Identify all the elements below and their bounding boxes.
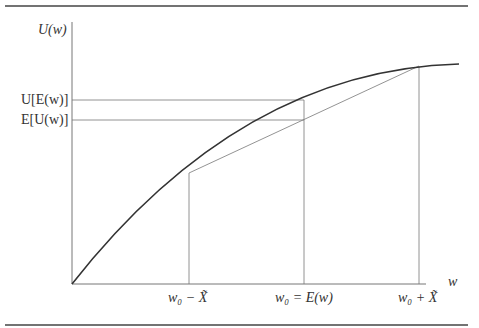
- x-tick-high: w₀ + X̃: [398, 291, 437, 305]
- utility-diagram: [0, 0, 479, 328]
- y-axis-label: U(w): [38, 23, 67, 37]
- utility-curve: [72, 64, 459, 284]
- x-tick-low: w₀ − X̃: [168, 291, 207, 305]
- y-tick-u-of-expected: U[E(w)]: [21, 93, 68, 107]
- y-tick-expected-u: E[U(w)]: [21, 113, 68, 127]
- x-axis-label: w: [448, 275, 457, 289]
- x-tick-mid: w₀ = E(w): [275, 291, 333, 305]
